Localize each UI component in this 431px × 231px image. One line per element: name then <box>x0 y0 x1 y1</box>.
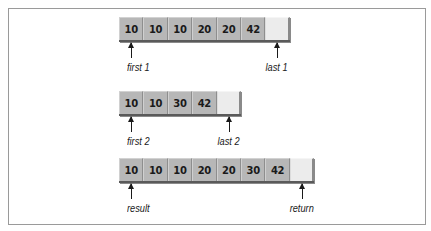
array-range1: 10 10 10 20 20 42 <box>119 17 290 42</box>
pointer-label: last 1 <box>266 61 288 73</box>
up-arrow-icon <box>302 184 303 199</box>
array-cell: 30 <box>168 91 192 114</box>
pointer-label: first 1 <box>127 61 150 73</box>
pointer-label: last 2 <box>218 135 240 147</box>
up-arrow-icon <box>229 117 230 132</box>
array-cell: 10 <box>143 17 167 40</box>
array-cell: 10 <box>119 91 143 114</box>
pointer-first-1: first 1 <box>127 43 167 73</box>
array-cell-end <box>290 158 314 181</box>
pointer-label: first 2 <box>127 135 150 147</box>
array-cell: 10 <box>119 158 143 181</box>
array-cell: 20 <box>217 158 241 181</box>
up-arrow-icon <box>131 184 132 199</box>
up-arrow-icon <box>131 117 132 132</box>
array-result: 10 10 10 20 20 30 42 <box>119 158 314 183</box>
array-cell-end <box>265 17 289 40</box>
array-cell: 10 <box>119 17 143 40</box>
pointer-last-2: last 2 <box>209 117 249 147</box>
pointer-first-2: first 2 <box>127 117 167 147</box>
up-arrow-icon <box>277 43 278 58</box>
array-cell: 30 <box>241 158 265 181</box>
pointer-label: return <box>290 202 314 214</box>
pointer-return: return <box>282 184 322 214</box>
pointer-result: result <box>127 184 167 214</box>
array-cell: 10 <box>168 17 192 40</box>
array-cell: 20 <box>192 158 216 181</box>
array-cell-end <box>217 91 241 114</box>
array-cell: 42 <box>265 158 289 181</box>
pointer-label: result <box>127 202 150 214</box>
array-cell: 10 <box>168 158 192 181</box>
array-cell: 20 <box>217 17 241 40</box>
pointer-last-1: last 1 <box>257 43 297 73</box>
array-cell: 10 <box>143 91 167 114</box>
up-arrow-icon <box>131 43 132 58</box>
array-cell: 42 <box>241 17 265 40</box>
array-cell: 20 <box>192 17 216 40</box>
array-cell: 42 <box>192 91 216 114</box>
array-range2: 10 10 30 42 <box>119 91 241 116</box>
array-cell: 10 <box>143 158 167 181</box>
